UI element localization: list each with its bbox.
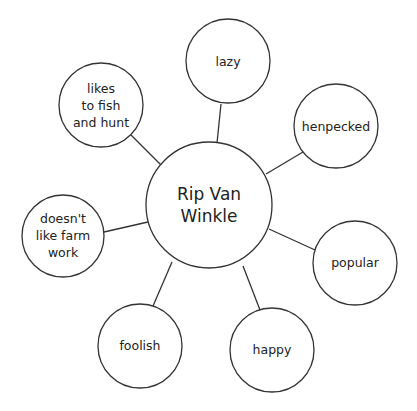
center-label-line-2: Winkle [181, 206, 238, 226]
center-node-rip-van-winkle: Rip Van Winkle [146, 142, 272, 268]
node-label-line-2: to fish [82, 98, 121, 113]
node-label: henpecked [302, 119, 370, 134]
node-label-line-3: and hunt [73, 115, 129, 130]
node-likes-to-fish-and-hunt: likes to fish and hunt [59, 63, 143, 147]
node-doesnt-like-farm-work: doesn't like farm work [22, 195, 104, 277]
link-happy [243, 266, 260, 310]
node-happy: happy [230, 308, 314, 392]
node-label: happy [253, 342, 292, 357]
link-lazy [217, 104, 221, 143]
node-label: lazy [215, 54, 241, 69]
link-likes-to-fish-and-hunt [131, 135, 163, 167]
center-label-line-1: Rip Van [177, 184, 241, 204]
link-foolish [153, 262, 172, 306]
link-popular [269, 229, 315, 250]
node-label-line-1: likes [87, 81, 115, 96]
link-doesnt-like-farm-work [104, 222, 148, 232]
concept-web-diagram: Rip Van Winkle lazy henpecked popular ha… [0, 0, 417, 411]
node-henpecked: henpecked [294, 84, 378, 168]
node-lazy: lazy [186, 19, 270, 103]
node-label-line-1: doesn't [40, 211, 86, 226]
link-henpecked [266, 152, 303, 174]
node-label-line-2: like farm [36, 228, 91, 243]
node-label: popular [331, 255, 380, 270]
node-foolish: foolish [98, 304, 182, 388]
node-popular: popular [313, 221, 397, 305]
node-label: foolish [119, 338, 160, 353]
node-label-line-3: work [48, 245, 79, 260]
